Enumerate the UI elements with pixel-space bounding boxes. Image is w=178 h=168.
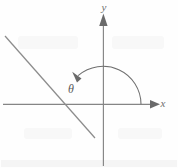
x-axis (3, 100, 160, 109)
diagram-canvas: x y θ (0, 0, 178, 168)
x-axis-label: x (160, 97, 166, 109)
y-axis (99, 14, 107, 167)
angle-diagram-figure: x y θ (0, 0, 178, 168)
angle-arc (72, 66, 141, 104)
angle-theta-label: θ (68, 82, 74, 96)
terminal-ray-line (5, 36, 95, 138)
y-axis-label: y (101, 1, 107, 13)
